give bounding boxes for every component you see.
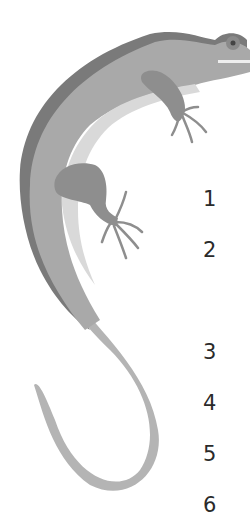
list-number-6: 6	[203, 495, 223, 516]
list-number-5: 5	[203, 444, 223, 465]
lizard-eye	[231, 41, 236, 46]
list-number-2: 2	[203, 240, 223, 261]
list-number-3: 3	[203, 342, 223, 363]
lizard-hind-toes	[102, 192, 142, 258]
list-number-1: 1	[203, 189, 223, 210]
list-number-4: 4	[203, 393, 223, 414]
lizard-mouth	[218, 60, 250, 63]
